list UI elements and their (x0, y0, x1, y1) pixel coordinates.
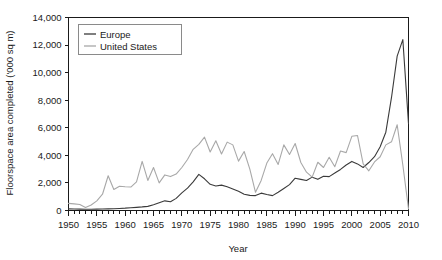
x-tick-label: 1985 (256, 219, 277, 230)
y-tick-label: 10,000 (32, 67, 61, 78)
y-axis-title: Floorspace area completed ('000 sq m) (4, 31, 15, 196)
x-tick-label: 2010 (398, 219, 419, 230)
x-tick-label: 2005 (370, 219, 391, 230)
x-tick-label: 1960 (115, 219, 136, 230)
x-axis-ticks: 1950195519601965197019751980198519901995… (58, 211, 419, 230)
y-tick-label: 6,000 (38, 122, 62, 133)
chart-legend: Europe United States (79, 25, 182, 55)
y-tick-label: 4,000 (38, 150, 62, 161)
y-tick-label: 14,000 (32, 12, 61, 23)
x-tick-label: 1955 (86, 219, 107, 230)
x-tick-label: 1975 (200, 219, 221, 230)
data-series-group (69, 40, 409, 210)
series-line-europe (69, 40, 409, 210)
x-tick-label: 1990 (285, 219, 306, 230)
chart-figure: 02,0004,0006,0008,00010,00012,00014,000 … (0, 0, 442, 260)
x-tick-label: 1995 (313, 219, 334, 230)
x-tick-label: 1970 (171, 219, 192, 230)
x-axis-title: Year (228, 243, 247, 254)
legend-label-united-states: United States (100, 41, 157, 52)
x-tick-label: 1980 (228, 219, 249, 230)
y-axis-ticks: 02,0004,0006,0008,00010,00012,00014,000 (32, 12, 68, 216)
y-tick-label: 12,000 (32, 39, 61, 50)
x-tick-label: 1965 (143, 219, 164, 230)
y-tick-label: 2,000 (38, 177, 62, 188)
series-line-united-states (69, 125, 409, 209)
y-tick-label: 0 (56, 205, 61, 216)
x-tick-label: 1950 (58, 219, 79, 230)
line-chart: 02,0004,0006,0008,00010,00012,00014,000 … (0, 0, 442, 260)
legend-label-europe: Europe (100, 29, 131, 40)
x-tick-label: 2000 (341, 219, 362, 230)
y-tick-label: 8,000 (38, 95, 62, 106)
